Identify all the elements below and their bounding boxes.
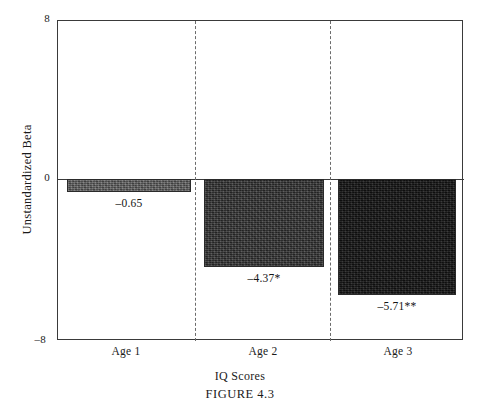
category-divider-2 <box>330 21 331 341</box>
x-axis-title: IQ Scores <box>0 369 480 384</box>
bar-value-label-age-3: –5.71** <box>343 300 451 312</box>
x-axis-category-label-age-1: Age 1 <box>71 345 181 357</box>
bar-age-2[interactable] <box>204 179 324 267</box>
figure-container: Unstandardized Beta 8 0 –8 –0.65 –4.37* … <box>0 0 480 404</box>
plot-area: –0.65 –4.37* –5.71** <box>57 20 463 340</box>
category-divider-1 <box>195 21 196 341</box>
x-axis-category-label-age-2: Age 2 <box>208 345 318 357</box>
bar-age-3[interactable] <box>338 179 456 295</box>
y-axis-tick-label-neg8: –8 <box>24 334 46 345</box>
figure-caption: FIGURE 4.3 <box>0 387 480 402</box>
bar-value-label-age-1: –0.65 <box>72 197 186 209</box>
y-axis-tick-label-8: 8 <box>28 13 50 24</box>
bar-age-1[interactable] <box>67 179 191 192</box>
y-axis-tick-label-0: 0 <box>28 172 50 183</box>
x-axis-category-label-age-3: Age 3 <box>343 345 453 357</box>
bar-value-label-age-2: –4.37* <box>209 272 319 284</box>
